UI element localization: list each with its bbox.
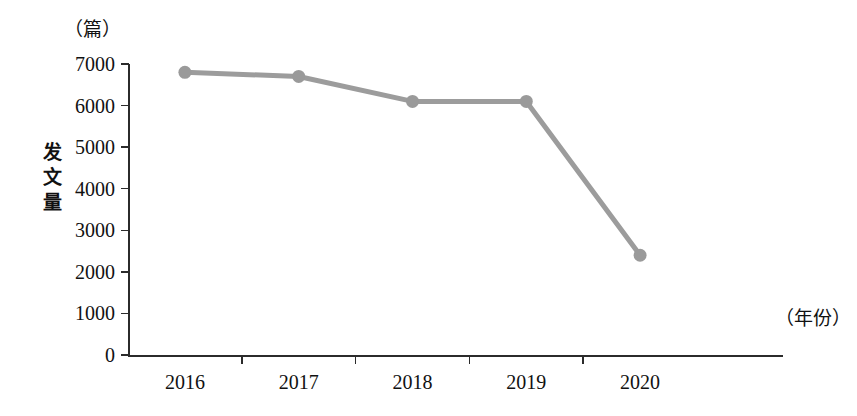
y-axis-title-char: 量 bbox=[40, 190, 64, 215]
data-point-marker bbox=[406, 95, 419, 108]
y-axis-tick-label: 3000 bbox=[75, 220, 115, 240]
y-axis-tick-label: 6000 bbox=[75, 96, 115, 116]
data-point-marker bbox=[520, 95, 533, 108]
x-axis-category-label: 2017 bbox=[279, 370, 319, 394]
x-axis-tick bbox=[582, 355, 584, 364]
y-axis-title-char: 发 bbox=[40, 140, 64, 165]
series-layer bbox=[128, 64, 783, 355]
x-axis-category-label: 2019 bbox=[506, 370, 546, 394]
series-markers bbox=[178, 66, 646, 262]
line-chart: （篇） 发 文 量 01000200030004000500060007000 … bbox=[0, 0, 857, 416]
x-axis-title: （年份） bbox=[775, 306, 851, 330]
y-axis-tick-label: 5000 bbox=[75, 137, 115, 157]
y-axis-tick-label: 7000 bbox=[75, 54, 115, 74]
x-axis-category-label: 2016 bbox=[165, 370, 205, 394]
x-axis-category-label: 2018 bbox=[393, 370, 433, 394]
x-axis-tick bbox=[469, 355, 471, 364]
y-axis-title-char: 文 bbox=[40, 165, 64, 190]
plot-area: 01000200030004000500060007000 2016201720… bbox=[128, 64, 783, 355]
y-axis-unit-label: （篇） bbox=[64, 18, 121, 40]
y-axis-title: 发 文 量 bbox=[40, 140, 64, 215]
data-point-marker bbox=[292, 70, 305, 83]
x-axis-tick bbox=[241, 355, 243, 364]
y-axis-tick-label: 0 bbox=[105, 345, 115, 365]
x-axis-tick bbox=[355, 355, 357, 364]
data-point-marker bbox=[178, 66, 191, 79]
x-axis-line bbox=[128, 355, 783, 357]
y-axis-tick-label: 1000 bbox=[75, 303, 115, 323]
y-axis-tick-label: 4000 bbox=[75, 179, 115, 199]
y-axis-tick-label: 2000 bbox=[75, 262, 115, 282]
x-axis-category-label: 2020 bbox=[620, 370, 660, 394]
data-point-marker bbox=[634, 249, 647, 262]
